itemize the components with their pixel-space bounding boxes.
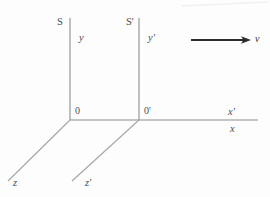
z-axis-line-Sprime xyxy=(72,120,139,181)
diagram-canvas: S S' y y' 0 0' x' x z z' v xyxy=(0,0,270,197)
axis-label-x-prime: x' xyxy=(228,107,235,118)
origin-label-O: 0 xyxy=(75,106,80,116)
axis-label-z-prime: z' xyxy=(85,178,91,189)
axis-label-y-prime: y' xyxy=(148,33,155,44)
frame-label-S: S xyxy=(57,17,63,28)
axis-label-z: z xyxy=(13,178,17,189)
frame-label-S-prime: S' xyxy=(126,17,134,28)
axis-label-x: x xyxy=(230,124,235,135)
reference-frames-svg xyxy=(0,0,270,197)
velocity-label-v: v xyxy=(255,34,259,44)
scan-artifact-line xyxy=(182,2,268,6)
z-axis-line-S xyxy=(8,120,70,181)
axis-label-y: y xyxy=(79,33,84,44)
origin-label-O-prime: 0' xyxy=(144,106,151,116)
